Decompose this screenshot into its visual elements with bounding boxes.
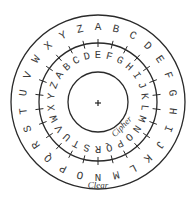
outer-letter: D	[141, 39, 154, 53]
inner-letter: O	[123, 131, 136, 144]
outer-letter: Z	[75, 22, 85, 35]
inner-letter: W	[47, 113, 61, 124]
inner-letter: X	[45, 103, 58, 111]
inner-letter: B	[60, 60, 73, 73]
outer-letter: J	[153, 138, 167, 150]
outer-letter: I	[161, 123, 175, 133]
inner-letter: N	[130, 123, 143, 135]
outer-letter: E	[153, 53, 167, 66]
outer-letter: W	[29, 53, 43, 66]
outer-letter: A	[95, 21, 102, 33]
inner-letter: J	[135, 80, 148, 90]
inner-letter: V	[52, 122, 66, 135]
inner-letter: F	[105, 50, 114, 63]
clear-label: Clear	[88, 180, 109, 190]
inner-letter: E	[95, 49, 101, 61]
inner-letter: U	[60, 131, 73, 144]
inner-letter: A	[53, 69, 67, 82]
outer-letter: V	[21, 70, 35, 81]
outer-letter: L	[127, 162, 138, 176]
outer-letter: H	[166, 107, 179, 115]
inner-letter: R	[94, 143, 101, 155]
outer-letter: M	[111, 168, 120, 181]
inner-letter: K	[138, 92, 151, 100]
tick-mark	[153, 109, 161, 110]
outer-letter: Q	[42, 151, 55, 165]
inner-letter: L	[138, 104, 151, 112]
tick-mark	[35, 109, 43, 110]
inner-letter: I	[130, 69, 143, 81]
inner-letter: C	[71, 54, 82, 68]
outer-letter: O	[75, 168, 85, 181]
outer-letter: Y	[57, 29, 69, 43]
tick-mark	[143, 133, 150, 138]
outer-letter: T	[17, 107, 30, 115]
tick-mark	[143, 66, 150, 71]
outer-letter: R	[29, 138, 43, 151]
outer-letter: P	[57, 161, 69, 175]
tick-mark	[46, 66, 53, 71]
inner-letter: Q	[105, 141, 114, 154]
inner-letter: T	[71, 137, 82, 151]
outer-letter: K	[141, 151, 154, 165]
outer-letter: G	[166, 89, 179, 97]
inner-letter: G	[114, 54, 125, 68]
center-plus-icon	[95, 100, 101, 106]
inner-letter: Y	[45, 92, 58, 100]
tick-mark	[46, 133, 53, 138]
outer-letter: U	[17, 89, 30, 97]
outer-letter: S	[21, 123, 35, 134]
tick-mark	[153, 94, 161, 95]
cipher-wheel: ABCDEFGHIJKLMNOPQRSTUVWXYZ ABCDEFGHIJKLM…	[0, 0, 192, 204]
outer-letter: C	[127, 29, 139, 43]
tick-mark	[35, 94, 43, 95]
outer-letter: B	[111, 23, 121, 36]
inner-letter: Z	[47, 80, 60, 90]
inner-letter: S	[82, 141, 91, 154]
inner-letter: H	[123, 60, 136, 73]
outer-letter: X	[42, 39, 55, 53]
inner-letter: D	[82, 50, 91, 63]
outer-letter: F	[161, 70, 175, 80]
inner-letter: M	[135, 114, 148, 124]
